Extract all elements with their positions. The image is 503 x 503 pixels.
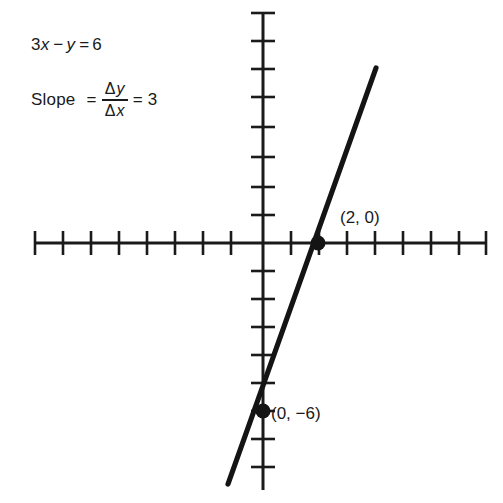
graph-canvas xyxy=(0,0,503,503)
point-marker-y-intercept xyxy=(256,404,271,419)
coordinate-plane-figure: 3x−y=6 Slope = Δy Δx = 3 (2, 0) (0, −6) xyxy=(0,0,503,503)
line-graph xyxy=(228,68,376,484)
point-marker-x-intercept xyxy=(311,236,326,251)
